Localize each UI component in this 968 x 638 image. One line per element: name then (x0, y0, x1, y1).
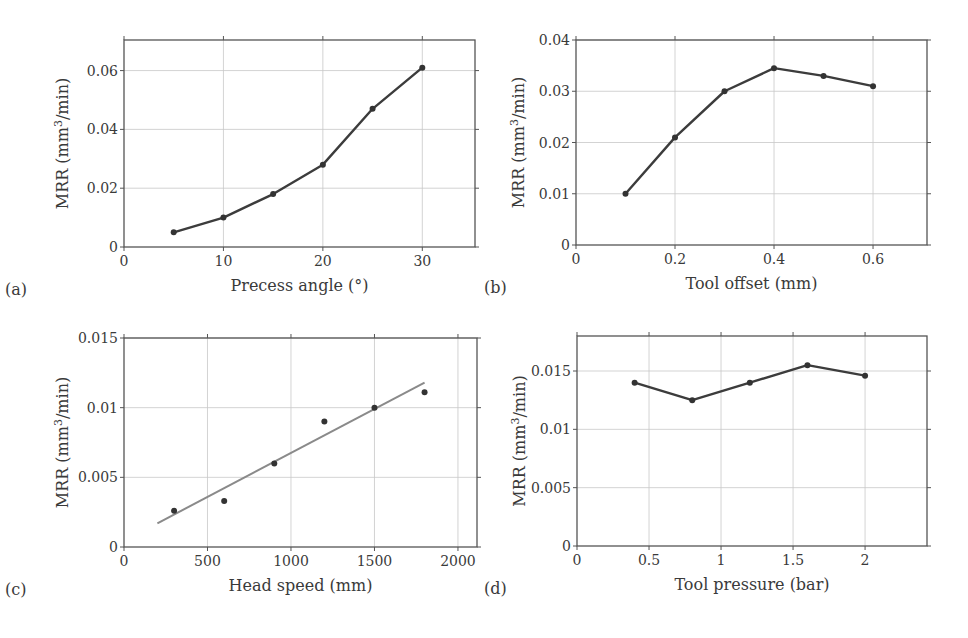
data-point (821, 73, 827, 79)
data-point (371, 405, 377, 411)
x-tick-label: 0.5 (638, 552, 660, 568)
chart-panel-b: 00.20.40.600.010.020.030.04Tool offset (… (484, 32, 931, 297)
data-point (722, 88, 728, 94)
x-tick-label: 0 (572, 251, 581, 267)
y-tick-label: 0.04 (539, 32, 570, 48)
data-point (870, 83, 876, 89)
x-tick-label: 0 (120, 553, 129, 569)
y-tick-label: 0 (109, 539, 118, 555)
data-point (689, 397, 695, 403)
x-tick-label: 0.4 (763, 251, 785, 267)
y-axis-ticks: 00.020.040.06 (87, 63, 479, 255)
data-markers (632, 362, 868, 403)
data-point (270, 191, 276, 197)
panel-label: (d) (484, 579, 507, 598)
data-point (623, 191, 629, 197)
y-tick-label: 0.06 (87, 63, 118, 79)
panel-label: (b) (484, 278, 507, 297)
data-point (370, 106, 376, 112)
data-point (422, 389, 428, 395)
y-tick-label: 0.01 (539, 186, 570, 202)
x-tick-label: 20 (314, 253, 332, 269)
figure: 010203000.020.040.06Precess angle (°)MRR… (0, 0, 968, 638)
x-tick-label: 1500 (357, 553, 393, 569)
y-tick-label: 0.02 (539, 135, 570, 151)
data-point (321, 419, 327, 425)
panel-label: (a) (5, 280, 27, 299)
data-point (220, 215, 226, 221)
y-tick-label: 0.01 (87, 400, 118, 416)
y-tick-label: 0 (561, 237, 570, 253)
y-tick-label: 0.03 (539, 83, 570, 99)
x-tick-label: 1000 (273, 553, 309, 569)
data-line (174, 68, 423, 233)
x-axis-ticks: 0500100015002000 (120, 334, 476, 569)
y-tick-label: 0 (562, 538, 571, 554)
x-tick-label: 0.6 (862, 251, 884, 267)
data-point (804, 362, 810, 368)
y-tick-label: 0.005 (78, 469, 118, 485)
plot-frame (577, 336, 927, 546)
data-point (271, 460, 277, 466)
x-tick-label: 2000 (440, 553, 476, 569)
x-tick-label: 0 (573, 552, 582, 568)
x-tick-label: 1 (717, 552, 726, 568)
data-markers (171, 65, 426, 236)
plot-frame (124, 338, 477, 547)
x-tick-label: 30 (413, 253, 431, 269)
y-axis-label: MRR (mm3/min) (52, 377, 72, 508)
panel-label: (c) (5, 580, 26, 599)
y-tick-label: 0.015 (78, 330, 118, 346)
gridlines (124, 338, 477, 547)
y-tick-label: 0 (109, 239, 118, 255)
data-point (747, 380, 753, 386)
chart-panel-a: 010203000.020.040.06Precess angle (°)MRR… (5, 36, 479, 299)
x-axis-label: Tool pressure (bar) (674, 575, 829, 594)
data-point (672, 134, 678, 140)
x-axis-label: Precess angle (°) (230, 276, 368, 295)
x-tick-label: 0.2 (664, 251, 686, 267)
gridlines (577, 336, 927, 546)
x-tick-label: 500 (194, 553, 221, 569)
x-tick-label: 2 (861, 552, 870, 568)
y-axis-label: MRR (mm3/min) (52, 78, 72, 209)
data-point (862, 373, 868, 379)
chart-panel-d: 00.511.5200.0050.010.015Tool pressure (b… (484, 332, 931, 598)
y-axis-label: MRR (mm3/min) (508, 77, 528, 208)
chart-panel-c: 050010001500200000.0050.010.015Head spee… (5, 330, 481, 599)
y-tick-label: 0.005 (531, 480, 571, 496)
y-tick-label: 0.01 (540, 421, 571, 437)
data-point (221, 498, 227, 504)
x-axis-label: Tool offset (mm) (686, 274, 818, 293)
x-tick-label: 10 (215, 253, 233, 269)
data-markers (623, 65, 877, 197)
y-axis-label: MRR (mm3/min) (509, 375, 529, 506)
data-point (419, 65, 425, 71)
x-axis-label: Head speed (mm) (229, 576, 373, 595)
y-axis-ticks: 00.0050.010.015 (531, 363, 931, 554)
x-tick-label: 1.5 (782, 552, 804, 568)
y-tick-label: 0.015 (531, 363, 571, 379)
y-tick-label: 0.04 (87, 121, 118, 137)
gridlines (576, 40, 927, 245)
x-axis-ticks: 00.20.40.6 (572, 36, 885, 267)
y-axis-ticks: 00.0050.010.015 (78, 330, 481, 555)
data-point (171, 229, 177, 235)
data-line (626, 68, 874, 194)
data-point (632, 380, 638, 386)
data-point (171, 508, 177, 514)
x-tick-label: 0 (120, 253, 129, 269)
data-point (771, 65, 777, 71)
y-tick-label: 0.02 (87, 180, 118, 196)
data-point (320, 162, 326, 168)
gridlines (124, 40, 475, 247)
